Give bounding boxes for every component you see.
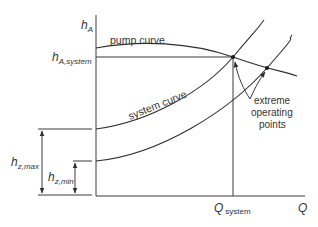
extreme-label-line1: extreme [254,95,291,106]
hz-max-label: hz,max [11,155,40,171]
x-axis-label: Q [298,201,307,215]
system-curve-label: system curve [126,87,188,121]
pump-curve [96,43,297,76]
h-system-label: hA,system [52,50,92,66]
operating-point-1 [231,55,235,59]
operating-point-2 [265,66,269,70]
pump-system-diagram: hA hA,system pump curve system curve ext… [0,0,318,227]
extreme-label-line2: operating [251,107,293,118]
y-axis-label: hA [81,18,93,34]
hz-min-label: hz,min [48,170,74,186]
extreme-label-line3: points [259,119,286,130]
q-system-label: Qsystem [214,201,251,216]
arrow-to-point-1 [235,62,250,99]
pump-curve-label: pump curve [110,34,165,46]
